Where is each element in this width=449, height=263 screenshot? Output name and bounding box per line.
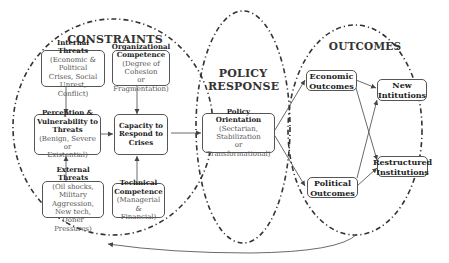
internal-threats-detail: Conflict)	[58, 90, 88, 98]
perception-title: Vulnerability to Threats	[37, 118, 98, 135]
internal-threats-detail: (Economic & Political	[44, 56, 102, 73]
perception-detail: Existential)	[47, 151, 88, 159]
internal-threats-title: Internal Threats	[44, 39, 102, 56]
economic-outcomes-title: Outcomes	[309, 81, 354, 91]
policy-orientation-title: Policy Orientation	[205, 108, 272, 125]
new-institutions-title: New	[392, 80, 411, 90]
restructured-institutions-title: Institutions	[376, 167, 429, 177]
org-competence-detail: (Degree of Cohesion	[115, 60, 167, 77]
edge-economic-to-new	[356, 80, 376, 88]
node-economic-outcomes: Economic Outcomes	[306, 70, 357, 91]
external-threats-detail: Aggression, New tech,	[45, 200, 101, 217]
new-institutions-title: Intitutions	[378, 90, 426, 100]
political-outcomes-title: Political	[314, 178, 351, 188]
capacity-title: Crises	[129, 139, 153, 147]
edge-policy-to-economic	[275, 80, 305, 130]
external-threats-detail: Doner Pressures)	[45, 216, 101, 233]
restructured-institutions-title: Restructured	[373, 157, 432, 167]
policy-response-title-line2: RESPONSE	[208, 80, 278, 93]
economic-outcomes-title: Economic	[310, 71, 354, 81]
node-external-threats: External Threats (Oil shocks, Military A…	[42, 181, 104, 218]
node-organizational-competence: Organizational Competence (Degree of Coh…	[112, 50, 170, 86]
policy-framework-diagram: CONSTRAINTS POLICY RESPONSE OUTCOMES Int…	[0, 0, 449, 263]
policy-response-title: POLICY RESPONSE	[208, 67, 278, 93]
edge-feedback-outcomes-to-constraints	[108, 234, 357, 253]
political-outcomes-title: Outcomes	[310, 188, 355, 198]
technical-competence-title: Competence	[114, 188, 163, 196]
org-competence-title: Competence	[117, 51, 166, 59]
node-new-institutions: New Intitutions	[377, 79, 427, 101]
policy-orientation-detail: or Transformational)	[205, 141, 272, 158]
external-threats-title: External Threats	[45, 166, 101, 183]
edge-economic-to-restructured	[356, 88, 377, 160]
node-technical-competence: Technical Competence (Managerial & Finan…	[112, 183, 165, 218]
internal-threats-detail: Crises, Social Unrest,	[44, 73, 102, 90]
external-threats-detail: (Oil shocks, Military	[45, 183, 101, 200]
outcomes-title: OUTCOMES	[320, 40, 410, 53]
node-political-outcomes: Political Outcomes	[307, 177, 358, 198]
node-restructured-institutions: Restructured Institutions	[377, 156, 428, 177]
node-internal-threats: Internal Threats (Economic & Political C…	[41, 50, 105, 87]
technical-competence-detail: Financial)	[121, 213, 157, 221]
org-competence-detail: or Fragmentation)	[113, 76, 169, 93]
technical-competence-detail: (Managerial &	[115, 196, 162, 213]
perception-detail: (Benign, Severe or	[37, 135, 98, 152]
node-policy-orientation: Policy Orientation (Sectarian, Stabiliza…	[202, 113, 275, 153]
policy-response-title-line1: POLICY	[208, 67, 278, 80]
node-capacity-to-respond: Capacity to Respond to Crises	[114, 114, 168, 155]
outcomes-region	[288, 25, 422, 235]
policy-orientation-detail: (Sectarian, Stabilization	[205, 125, 272, 142]
edge-political-to-restructured	[357, 168, 377, 186]
node-perception-vulnerability: Perception & Vulnerability to Threats (B…	[34, 114, 101, 155]
